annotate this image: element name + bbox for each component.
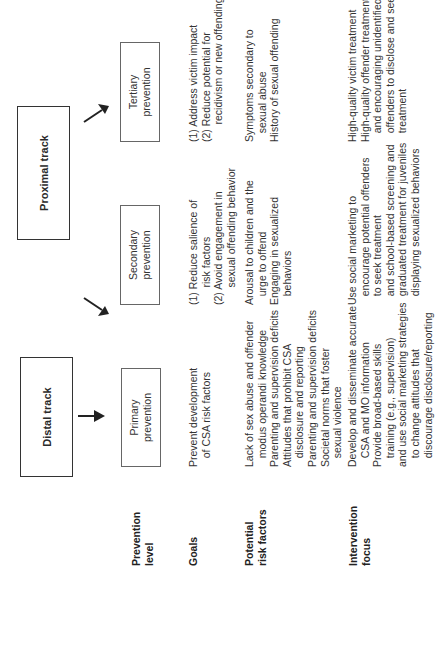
proximal-track-box: Proximal track <box>17 106 70 240</box>
primary-intervention-focus: Develop and disseminate accurate CSA and… <box>346 302 434 467</box>
secondary-risk-factors: Arousal to children and the urge to offe… <box>243 180 293 305</box>
secondary-prevention-box: Secondary prevention <box>120 205 160 305</box>
row-label-intervention-focus: Intervention focus <box>347 486 373 566</box>
tertiary-goals: (1) Address victim impact (2) Reduce pot… <box>187 0 225 142</box>
arrow-proximal-to-tertiary-icon <box>84 102 110 126</box>
secondary-goals: (1) Reduce salience of risk factors (2) … <box>187 168 237 305</box>
primary-goals: Prevent development of CSA risk factors <box>187 368 212 467</box>
arrow-proximal-to-secondary-icon <box>84 292 110 316</box>
tertiary-intervention-focus: High-quality victim treatment High-quali… <box>346 0 409 142</box>
prevention-framework-diagram: Distal track Proximal track Primary prev… <box>0 0 440 646</box>
tertiary-risk-factors: Symptoms secondary to sexual abuse Histo… <box>243 18 281 142</box>
row-label-goals: Goals <box>187 496 200 566</box>
row-label-prevention-level: Prevention level <box>130 496 156 566</box>
primary-prevention-box: Primary prevention <box>121 368 161 467</box>
secondary-prevention-label: Secondary prevention <box>127 230 153 280</box>
primary-risk-factors: Lack of sex abuse and offender modus ope… <box>243 310 344 467</box>
row-label-risk-factors: Potential risk factors <box>243 496 269 566</box>
tertiary-prevention-label: Tertiary prevention <box>127 67 153 116</box>
secondary-intervention-focus: Use social marketing to encourage potent… <box>346 143 422 305</box>
tertiary-prevention-box: Tertiary prevention <box>120 42 160 142</box>
arrow-distal-to-primary-icon <box>78 410 106 422</box>
primary-prevention-label: Primary prevention <box>128 393 154 442</box>
distal-track-label: Distal track <box>41 387 53 446</box>
distal-track-box: Distal track <box>20 357 73 477</box>
proximal-track-label: Proximal track <box>38 135 50 211</box>
